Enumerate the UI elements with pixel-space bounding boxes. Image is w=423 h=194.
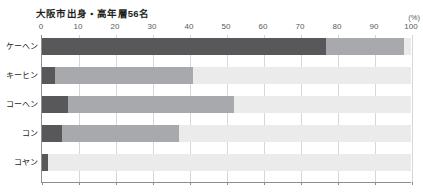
bar-segment-3[interactable] (404, 38, 411, 55)
bar-track (42, 125, 411, 142)
y-axis-label-3: コーヘン (0, 96, 38, 113)
bar-segment-2[interactable] (326, 38, 403, 55)
bar-segment-1[interactable] (42, 96, 68, 113)
x-tick-label-0: 0 (39, 22, 43, 31)
bar-segment-1[interactable] (42, 67, 55, 84)
y-axis-label-4: コン (0, 125, 38, 142)
y-axis-category-labels: ケーヘンキーヒンコーヘンコンコヤン (0, 35, 38, 183)
x-tick-label-60: 60 (259, 22, 268, 31)
bar-row[interactable] (42, 154, 411, 171)
bar-row[interactable] (42, 96, 411, 113)
x-axis-tick-labels: 0102030405060708090100 (41, 22, 411, 33)
bar-track (42, 96, 411, 113)
bar-segment-2[interactable] (62, 125, 178, 142)
tick-mark-0 (42, 182, 43, 185)
bar-track (42, 154, 411, 171)
tick-mark-60 (264, 182, 265, 185)
x-tick-label-80: 80 (333, 22, 342, 31)
bar-segment-3[interactable] (48, 154, 411, 171)
tick-mark-10 (79, 182, 80, 185)
bar-segment-3[interactable] (234, 96, 411, 113)
chart-title: 大阪市出身・高年層56名 (36, 6, 149, 20)
tick-mark-80 (338, 182, 339, 185)
bar-segment-2[interactable] (55, 67, 193, 84)
tick-mark-50 (227, 182, 228, 185)
x-tick-label-70: 70 (296, 22, 305, 31)
tick-mark-20 (116, 182, 117, 185)
bar-segment-1[interactable] (42, 125, 62, 142)
plot-area (41, 35, 411, 183)
bar-segment-1[interactable] (42, 38, 326, 55)
x-tick-label-30: 30 (148, 22, 157, 31)
bar-track (42, 38, 411, 55)
y-axis-label-2: キーヒン (0, 67, 38, 84)
x-tick-label-100: 100 (404, 22, 417, 31)
bar-segment-2[interactable] (68, 96, 234, 113)
bar-segment-3[interactable] (193, 67, 411, 84)
y-axis-label-1: ケーヘン (0, 38, 38, 55)
bar-rows (42, 35, 411, 182)
x-tick-label-10: 10 (74, 22, 83, 31)
x-tick-label-40: 40 (185, 22, 194, 31)
bar-track (42, 67, 411, 84)
stacked-bar-chart: 大阪市出身・高年層56名 (%) 0102030405060708090100 … (0, 0, 423, 194)
tick-mark-90 (375, 182, 376, 185)
y-axis-label-5: コヤン (0, 154, 38, 171)
tick-mark-70 (301, 182, 302, 185)
bar-row[interactable] (42, 125, 411, 142)
axis-unit-label: (%) (408, 13, 420, 22)
tick-mark-30 (153, 182, 154, 185)
x-tick-label-20: 20 (111, 22, 120, 31)
x-tick-label-90: 90 (370, 22, 379, 31)
bar-row[interactable] (42, 67, 411, 84)
tick-mark-100 (412, 182, 413, 185)
bar-segment-3[interactable] (179, 125, 411, 142)
bar-row[interactable] (42, 38, 411, 55)
tick-mark-40 (190, 182, 191, 185)
gridline-100 (412, 35, 413, 182)
x-tick-label-50: 50 (222, 22, 231, 31)
